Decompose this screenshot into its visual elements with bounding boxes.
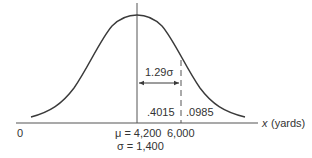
area-label-tail: .0985	[186, 106, 214, 118]
bell-curve	[31, 15, 245, 117]
distance-label: 1.29σ	[145, 66, 173, 78]
origin-label: 0	[17, 127, 23, 139]
normal-distribution-diagram: 1.29σ .4015 .0985 0 μ = 4,200 σ = 1,400 …	[0, 0, 312, 158]
x-axis-unit: (yards)	[271, 117, 305, 129]
x-axis-variable: x	[261, 117, 268, 129]
area-label-center: .4015	[147, 106, 175, 118]
mean-label: μ = 4,200	[115, 127, 161, 139]
std-dev-label: σ = 1,400	[117, 140, 164, 152]
cutoff-label: 6,000	[167, 127, 195, 139]
